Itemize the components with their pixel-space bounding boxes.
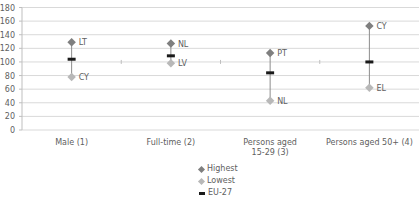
legend-item-highest: Highest bbox=[198, 163, 238, 175]
point-label: CY bbox=[376, 22, 386, 31]
diamond-marker-icon bbox=[266, 49, 274, 57]
point-label: LV bbox=[178, 59, 188, 68]
point-label: NL bbox=[277, 97, 288, 106]
diamond-marker-icon bbox=[198, 177, 205, 184]
gridlines bbox=[22, 8, 419, 131]
x-category-label: Persons aged 50+ (4) bbox=[326, 138, 413, 147]
legend: Highest Lowest EU-27 bbox=[198, 163, 238, 199]
y-tick-label: 180 bbox=[0, 4, 15, 13]
x-category-label: Persons aged bbox=[243, 138, 297, 147]
y-tick-label: 40 bbox=[5, 99, 15, 108]
eu27-marker bbox=[167, 54, 175, 57]
y-tick-label: 120 bbox=[0, 44, 15, 53]
x-axis: Male (1)Full-time (2)Persons aged15-29 (… bbox=[55, 60, 413, 157]
y-tick-label: 140 bbox=[0, 31, 15, 40]
eu27-marker bbox=[266, 71, 274, 74]
diamond-marker-icon bbox=[167, 39, 175, 47]
eu27-marker bbox=[68, 58, 76, 61]
legend-item-lowest: Lowest bbox=[198, 175, 238, 187]
x-category-label: 15-29 (3) bbox=[252, 148, 289, 157]
y-axis: 020406080100120140160180 bbox=[0, 4, 22, 136]
x-category-label: Full-time (2) bbox=[147, 138, 196, 147]
diamond-marker-icon bbox=[365, 84, 373, 92]
point-label: NL bbox=[178, 40, 189, 49]
y-tick-label: 0 bbox=[10, 126, 15, 135]
y-tick-label: 100 bbox=[0, 58, 15, 67]
y-tick-label: 80 bbox=[5, 72, 15, 81]
diamond-marker-icon bbox=[266, 96, 274, 104]
point-label: PT bbox=[277, 49, 287, 58]
point-label: LT bbox=[79, 38, 87, 47]
legend-label: Highest bbox=[207, 163, 238, 175]
diamond-marker-icon bbox=[167, 59, 175, 67]
eu27-marker bbox=[365, 60, 373, 63]
legend-label: EU-27 bbox=[208, 187, 232, 199]
y-tick-label: 20 bbox=[5, 112, 15, 121]
point-label: CY bbox=[79, 73, 89, 82]
diamond-marker-icon bbox=[67, 73, 75, 81]
x-category-label: Male (1) bbox=[55, 138, 88, 147]
y-tick-label: 160 bbox=[0, 17, 15, 26]
y-tick-label: 60 bbox=[5, 85, 15, 94]
legend-item-eu27: EU-27 bbox=[198, 187, 238, 199]
legend-label: Lowest bbox=[207, 175, 235, 187]
diamond-marker-icon bbox=[198, 165, 205, 172]
point-label: EL bbox=[376, 84, 386, 93]
dash-marker-icon bbox=[199, 192, 205, 195]
diamond-marker-icon bbox=[67, 38, 75, 46]
diamond-marker-icon bbox=[365, 22, 373, 30]
